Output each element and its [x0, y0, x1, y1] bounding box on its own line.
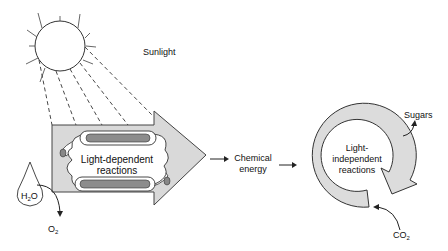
sugars-label: Sugars: [404, 110, 433, 120]
co2-input-arrow: [373, 204, 400, 230]
arrow-to-chemical-energy: [210, 156, 229, 162]
co2-label: CO2: [393, 230, 411, 241]
oxygen-label: O2: [48, 224, 59, 235]
light-independent-label-line3: reactions: [339, 165, 376, 175]
light-dependent-label-line1: Light-dependent: [81, 154, 154, 165]
photosynthesis-diagram: Sunlight Light-dependent reactions H2O O…: [0, 0, 448, 251]
chemical-energy-label-line2: energy: [239, 164, 267, 174]
chemical-energy-label-line1: Chemical: [234, 153, 272, 163]
arrow-to-cycle: [279, 162, 297, 168]
sunlight-label: Sunlight: [143, 47, 176, 57]
light-dependent-label-line2: reactions: [97, 165, 138, 176]
light-independent-label-line1: Light-: [346, 143, 369, 153]
light-independent-label-line2: independent: [332, 154, 382, 164]
